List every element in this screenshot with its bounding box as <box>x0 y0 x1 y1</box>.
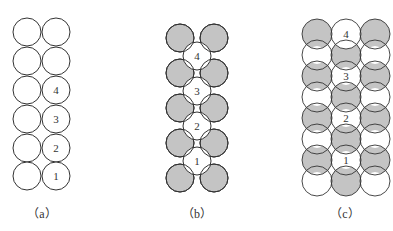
label-2: 2 <box>194 120 200 132</box>
label-3: 3 <box>53 113 59 125</box>
label-3: 3 <box>343 70 349 82</box>
panel-a <box>13 18 70 190</box>
label-2: 2 <box>343 112 349 124</box>
label-3: 3 <box>194 85 200 97</box>
panel-c <box>302 19 390 196</box>
caption-a: （a） <box>27 204 56 222</box>
label-4: 4 <box>53 84 59 96</box>
label-1: 1 <box>194 155 200 167</box>
label-4: 4 <box>343 28 349 40</box>
label-1: 1 <box>53 170 59 182</box>
label-2: 2 <box>53 142 59 154</box>
label-1: 1 <box>343 154 349 166</box>
caption-b: （b） <box>182 204 212 222</box>
label-4: 4 <box>194 50 200 62</box>
diagram-canvas: 4 3 2 1 4 3 2 1 <box>0 0 393 231</box>
caption-c: （c） <box>330 204 359 222</box>
